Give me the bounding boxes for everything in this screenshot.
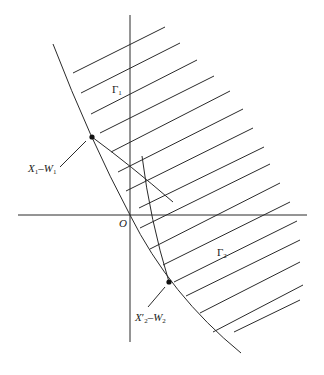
hatching bbox=[73, 27, 303, 332]
region-gamma1-label: Γ1 bbox=[112, 84, 122, 97]
line-through-x2 bbox=[142, 156, 169, 282]
point-x1 bbox=[89, 134, 94, 139]
origin-label: O bbox=[119, 218, 127, 229]
curve-from-x1 bbox=[92, 137, 173, 202]
point-x2-label: X′2–W2 bbox=[135, 312, 166, 325]
arrow-x2 bbox=[148, 287, 165, 307]
point-x1-label: X1–W1 bbox=[28, 163, 56, 176]
arrow-x1 bbox=[60, 141, 86, 167]
region-gamma2-label: Γ2 bbox=[217, 247, 227, 260]
point-x2 bbox=[166, 279, 171, 284]
